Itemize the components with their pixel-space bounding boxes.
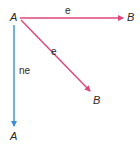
label-horizontal-end-b: B	[127, 12, 134, 22]
label-origin-a: A	[10, 12, 17, 22]
label-horizontal-edge-e: e	[65, 6, 71, 16]
label-diagonal-end-b: B	[93, 95, 100, 105]
label-vertical-end-a: A	[10, 131, 17, 141]
label-vertical-edge-ne: ne	[19, 66, 30, 76]
vector-diagram: A B e e B ne A	[0, 0, 140, 146]
label-diagonal-edge-e: e	[51, 47, 57, 57]
